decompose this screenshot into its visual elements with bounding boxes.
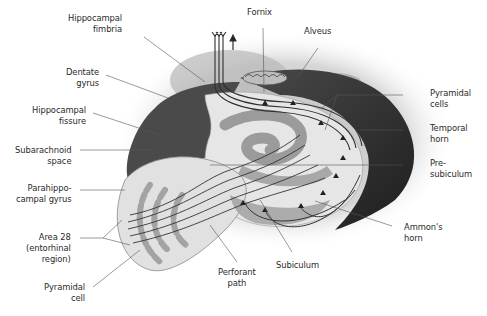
label-hippocampal-fimbria: Hippocampal fimbria xyxy=(68,13,122,35)
alveus-structure xyxy=(243,71,287,85)
label-parahippocampal-gyrus: Parahippo- campal gyrus xyxy=(16,183,72,205)
label-hippocampal-fissure: Hippocampal fissure xyxy=(32,105,86,127)
label-fornix: Fornix xyxy=(247,7,272,18)
label-alveus: Alveus xyxy=(304,26,331,37)
label-perforant-path: Perforant path xyxy=(218,267,256,289)
label-area-28: Area 28 (entorhinal region) xyxy=(26,232,71,265)
label-pyramidal-cells: Pyramidal cells xyxy=(430,88,471,110)
label-ammons-horn: Ammon's horn xyxy=(404,222,442,244)
label-presubiculum: Pre- subiculum xyxy=(430,158,472,180)
label-pyramidal-cell: Pyramidal cell xyxy=(44,282,85,304)
label-subarachnoid-space: Subarachnoid space xyxy=(15,145,71,167)
label-dentate-gyrus: Dentate gyrus xyxy=(66,67,99,89)
label-subiculum: Subiculum xyxy=(276,260,319,271)
label-temporal-horn: Temporal horn xyxy=(430,123,468,145)
